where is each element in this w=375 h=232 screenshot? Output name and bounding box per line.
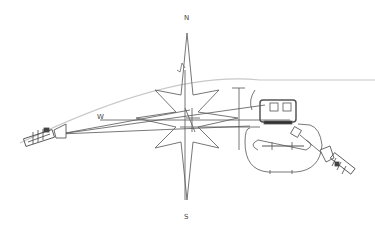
- west-label: W: [97, 113, 104, 121]
- diagram-canvas: N S W: [0, 0, 375, 232]
- sight-lines: [60, 105, 265, 134]
- left-device-icon: [23, 124, 66, 146]
- diagram-svg: [0, 0, 375, 232]
- south-label: S: [184, 213, 188, 221]
- structure-icon: [232, 88, 330, 174]
- right-device-icon: [320, 146, 355, 174]
- compass-rose-icon: [100, 33, 290, 200]
- north-label: N: [184, 14, 189, 22]
